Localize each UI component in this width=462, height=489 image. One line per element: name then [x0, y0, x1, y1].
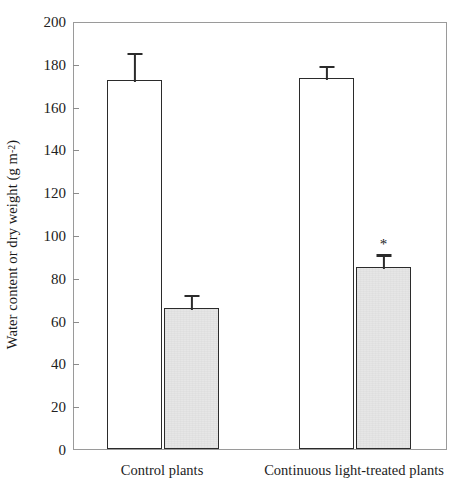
x-axis-category-label: Continuous light-treated plants [264, 463, 444, 478]
y-axis-tick-label: 80 [26, 271, 66, 286]
y-axis-tick-mark [73, 236, 79, 237]
y-axis-tick-mark [73, 150, 79, 151]
y-axis-tick-mark [73, 193, 79, 194]
y-axis-tick-label: 60 [26, 314, 66, 329]
significance-star: * [380, 237, 388, 252]
y-axis-tick-label: 160 [26, 100, 66, 115]
bar-dry-weight [164, 308, 219, 449]
y-axis-tick-mark [73, 322, 79, 323]
y-axis-tick-label: 200 [26, 15, 66, 30]
y-axis-tick-label: 100 [26, 229, 66, 244]
bar-dry-weight [356, 267, 411, 449]
y-axis-tick-label: 0 [26, 443, 66, 458]
y-axis-tick-label: 20 [26, 400, 66, 415]
y-axis-title-text: Water content or dry weight (g m [4, 153, 21, 349]
y-axis-tick-mark [73, 279, 79, 280]
y-axis-tick-mark [73, 65, 79, 66]
error-bar-cap [376, 254, 391, 256]
error-bar-stem [133, 53, 135, 82]
y-axis-tick-mark [73, 108, 79, 109]
y-axis-tick-label: 120 [26, 186, 66, 201]
plot-area: * [73, 22, 447, 450]
y-axis-tick-mark [73, 364, 79, 365]
y-axis-tick-mark [73, 407, 79, 408]
figure-container: Water content or dry weight (g m-2) 0204… [0, 0, 462, 489]
y-axis-tick-label: 40 [26, 357, 66, 372]
bar-water-content [107, 80, 162, 449]
y-axis-tick-labels: 020406080100120140160180200 [26, 0, 66, 489]
y-axis-title: Water content or dry weight (g m-2) [0, 0, 24, 489]
error-bar-cap [319, 66, 334, 68]
bar-water-content [299, 78, 354, 449]
error-bar-cap [184, 295, 199, 297]
y-axis-tick-label: 140 [26, 143, 66, 158]
x-axis-category-label: Control plants [121, 463, 204, 478]
y-axis-tick-label: 180 [26, 57, 66, 72]
error-bar-cap [127, 53, 142, 55]
y-axis-title-suffix: ) [4, 140, 21, 145]
